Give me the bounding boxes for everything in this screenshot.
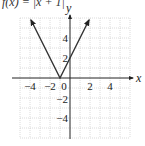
y-tick-label: −2 [56, 93, 68, 105]
x-tick-label: 0 [61, 80, 67, 92]
x-tick-label: 2 [87, 80, 93, 92]
x-axis-label: x [135, 71, 142, 85]
y-tick-label: −4 [56, 112, 68, 124]
x-tick-label: −2 [44, 80, 56, 92]
x-tick-label: −4 [24, 80, 36, 92]
function-graph: f(x) = |x + 1| x y −4 −2 0 2 4 [0, 0, 145, 146]
x-tick-label: 4 [107, 80, 113, 92]
formula-fragment: f(x) = |x + 1| [2, 0, 65, 9]
y-tick-label: 4 [63, 32, 69, 44]
y-axis-label: y [65, 1, 72, 15]
